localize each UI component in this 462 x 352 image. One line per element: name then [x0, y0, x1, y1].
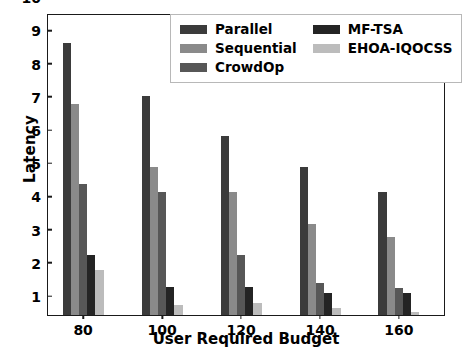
y-axis-tick-mark	[48, 196, 52, 198]
legend-entry-ehoa-iqocss: EHOA-IQOCSS	[313, 40, 453, 56]
legend-label-parallel: Parallel	[215, 21, 272, 37]
bar-sequential-140	[308, 224, 316, 315]
y-axis-tick-mark	[48, 262, 52, 264]
bar-ehoa-iqocss-120	[253, 303, 261, 315]
y-axis-tick-mark	[48, 96, 52, 98]
y-axis-tick-label: 1	[31, 289, 48, 305]
bar-crowdop-160	[395, 288, 403, 315]
bar-sequential-120	[229, 192, 237, 315]
bar-sequential-160	[387, 237, 395, 315]
y-axis-tick-mark	[48, 63, 52, 65]
bar-parallel-120	[221, 136, 229, 315]
y-axis-tick-mark	[48, 129, 52, 131]
y-axis-tick-label: 4	[31, 189, 48, 205]
bar-crowdop-120	[237, 255, 245, 315]
y-axis-tick: 8	[31, 54, 48, 73]
legend-swatch-sequential	[180, 44, 207, 53]
legend-entry-parallel: Parallel	[180, 21, 297, 37]
bar-crowdop-80	[79, 184, 87, 315]
y-axis-tick-label: 8	[31, 56, 48, 72]
y-axis-tick-mark	[48, 295, 52, 297]
y-axis-tick-label: 7	[31, 89, 48, 105]
bar-parallel-140	[300, 167, 308, 315]
legend-swatch-ehoa-iqocss	[313, 44, 340, 53]
bar-mf-tsa-140	[324, 293, 332, 315]
y-axis-tick: 10	[22, 0, 48, 7]
legend-swatch-mf-tsa	[313, 25, 340, 34]
bar-ehoa-iqocss-160	[411, 312, 419, 315]
bar-parallel-100	[142, 96, 150, 315]
legend-grid: ParallelMF-TSASequentialEHOA-IQOCSSCrowd…	[180, 21, 452, 75]
bar-sequential-100	[150, 167, 158, 315]
bar-mf-tsa-100	[166, 287, 174, 315]
legend-entry-mf-tsa: MF-TSA	[313, 21, 453, 37]
y-axis-tick-label: 9	[31, 23, 48, 39]
y-axis-tick: 4	[31, 187, 48, 206]
bar-ehoa-iqocss-140	[332, 308, 340, 315]
bar-mf-tsa-80	[87, 255, 95, 315]
legend-label-mf-tsa: MF-TSA	[348, 21, 403, 37]
y-axis-tick-label: 2	[31, 255, 48, 271]
legend: ParallelMF-TSASequentialEHOA-IQOCSSCrowd…	[170, 14, 462, 83]
bar-sequential-80	[71, 104, 79, 315]
y-axis-tick-mark	[48, 30, 52, 32]
bar-parallel-80	[63, 43, 71, 315]
y-axis-tick: 6	[31, 121, 48, 140]
bar-parallel-160	[378, 192, 386, 315]
legend-entry-crowdop: CrowdOp	[180, 59, 297, 75]
legend-entry-sequential: Sequential	[180, 40, 297, 56]
x-axis-label: User Required Budget	[47, 330, 445, 348]
x-axis-tick-mark	[398, 315, 400, 319]
legend-label-sequential: Sequential	[215, 40, 297, 56]
y-axis-tick: 9	[31, 21, 48, 40]
y-axis-tick: 3	[31, 220, 48, 239]
y-axis-tick: 7	[31, 87, 48, 106]
y-axis-tick: 2	[31, 253, 48, 272]
y-axis-tick: 5	[31, 154, 48, 173]
legend-swatch-crowdop	[180, 63, 207, 72]
legend-label-ehoa-iqocss: EHOA-IQOCSS	[348, 40, 453, 56]
y-axis-tick-label: 5	[31, 156, 48, 172]
legend-label-crowdop: CrowdOp	[215, 59, 284, 75]
bar-crowdop-100	[158, 192, 166, 315]
bar-mf-tsa-120	[245, 287, 253, 315]
x-axis-tick-mark	[161, 315, 163, 319]
x-axis-tick-mark	[319, 315, 321, 319]
bar-ehoa-iqocss-80	[95, 270, 103, 315]
y-axis-tick-label: 3	[31, 222, 48, 238]
y-axis-tick-label: 10	[22, 0, 48, 6]
y-axis-tick-mark	[48, 162, 52, 164]
legend-swatch-parallel	[180, 25, 207, 34]
y-axis-tick-label: 6	[31, 123, 48, 139]
y-axis-tick: 1	[31, 287, 48, 306]
x-axis-tick-mark	[240, 315, 242, 319]
bar-mf-tsa-160	[403, 293, 411, 315]
y-axis-tick-mark	[48, 229, 52, 231]
bar-ehoa-iqocss-100	[174, 305, 182, 315]
bar-crowdop-140	[316, 283, 324, 315]
x-axis-tick-mark	[82, 315, 84, 319]
